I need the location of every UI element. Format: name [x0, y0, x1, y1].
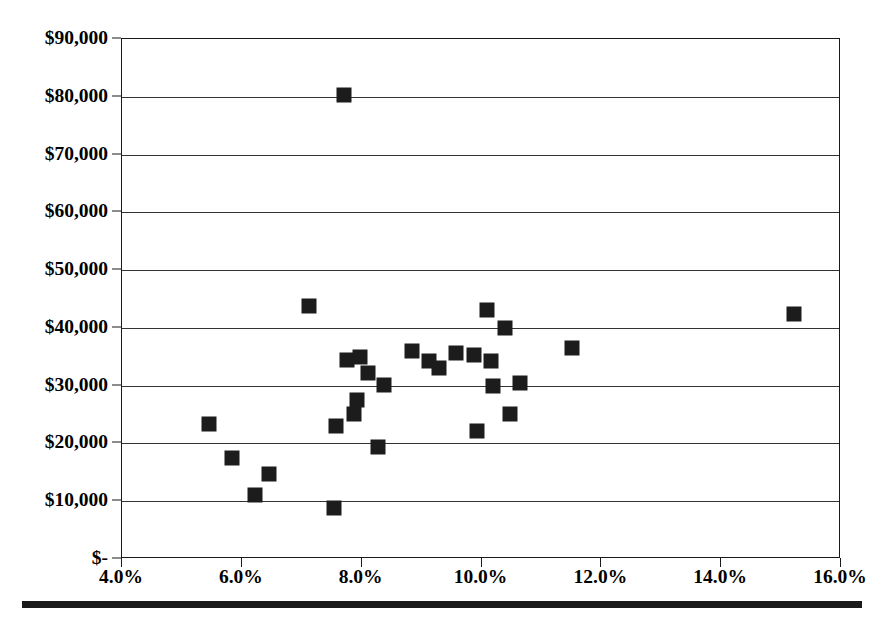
y-axis-tick-label: $10,000: [45, 489, 108, 511]
y-axis-tick-mark: [112, 211, 121, 212]
data-point-marker: [376, 377, 391, 392]
data-point-marker: [201, 416, 216, 431]
data-point-marker: [448, 345, 463, 360]
data-point-marker: [564, 341, 579, 356]
y-axis-tick-mark: [112, 384, 121, 385]
gridline-horizontal: [122, 97, 839, 98]
data-point-marker: [248, 487, 263, 502]
gridline-horizontal: [122, 270, 839, 271]
data-point-marker: [404, 344, 419, 359]
x-axis-tick-label: 4.0%: [99, 566, 143, 588]
y-axis-tick-mark: [112, 153, 121, 154]
y-axis-tick-label: $60,000: [45, 200, 108, 222]
data-point-marker: [497, 321, 512, 336]
data-point-marker: [224, 451, 239, 466]
data-point-marker: [786, 307, 801, 322]
data-point-marker: [431, 361, 446, 376]
y-axis-tick-mark: [112, 38, 121, 39]
x-axis-tick-label: 12.0%: [574, 566, 628, 588]
data-point-marker: [327, 501, 342, 516]
y-axis-tick-mark: [112, 500, 121, 501]
x-axis-tick-label: 6.0%: [219, 566, 263, 588]
y-axis-tick-mark: [112, 95, 121, 96]
y-axis-tick-mark: [112, 326, 121, 327]
x-axis-tick-label: 10.0%: [454, 566, 508, 588]
data-point-marker: [328, 419, 343, 434]
x-axis-tick-label: 8.0%: [339, 566, 383, 588]
y-axis-tick-mark: [112, 558, 121, 559]
y-axis-tick-label: $80,000: [45, 85, 108, 107]
gridline-horizontal: [122, 386, 839, 387]
gridline-horizontal: [122, 328, 839, 329]
data-point-marker: [301, 298, 316, 313]
gridline-horizontal: [122, 443, 839, 444]
data-point-marker: [337, 88, 352, 103]
data-point-marker: [513, 376, 528, 391]
data-point-marker: [360, 365, 375, 380]
y-axis-tick-label: $90,000: [45, 27, 108, 49]
scatter-chart: $-$10,000$20,000$30,000$40,000$50,000$60…: [0, 0, 884, 625]
data-point-marker: [347, 406, 362, 421]
y-axis-tick-mark: [112, 442, 121, 443]
y-axis-tick-label: $30,000: [45, 374, 108, 396]
gridline-horizontal: [122, 155, 839, 156]
data-point-marker: [261, 467, 276, 482]
data-point-marker: [479, 302, 494, 317]
y-axis-tick-label: $70,000: [45, 143, 108, 165]
gridline-horizontal: [122, 501, 839, 502]
y-axis-tick-label: $40,000: [45, 316, 108, 338]
data-point-marker: [350, 392, 365, 407]
x-axis-tick-label: 14.0%: [693, 566, 747, 588]
data-point-marker: [371, 440, 386, 455]
x-axis-tick-label: 16.0%: [813, 566, 867, 588]
data-point-marker: [503, 406, 518, 421]
data-point-marker: [469, 424, 484, 439]
data-point-marker: [353, 349, 368, 364]
gridline-horizontal: [122, 212, 839, 213]
y-axis-tick-mark: [112, 269, 121, 270]
data-point-marker: [484, 354, 499, 369]
y-axis-tick-label: $20,000: [45, 431, 108, 453]
data-point-marker: [466, 348, 481, 363]
bottom-rule: [22, 601, 862, 608]
data-point-marker: [486, 378, 501, 393]
data-point-marker: [339, 352, 354, 367]
plot-area: [121, 38, 840, 558]
y-axis-tick-label: $50,000: [45, 258, 108, 280]
